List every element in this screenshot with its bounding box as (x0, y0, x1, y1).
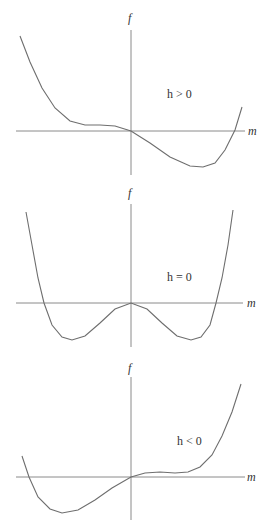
landau-free-energy-diagram: f m h > 0 f m h = 0 f m h < 0 (0, 0, 271, 532)
panel-h-negative: f m h < 0 (16, 361, 256, 520)
f-axis-label: f (128, 11, 133, 25)
panel-h-positive: f m h > 0 (16, 11, 257, 175)
m-axis-label: m (248, 124, 257, 138)
condition-label: h < 0 (177, 434, 202, 448)
f-axis-label: f (128, 361, 133, 375)
m-axis-label: m (247, 296, 256, 310)
panel-h-zero: f m h = 0 (16, 186, 256, 347)
condition-label: h > 0 (167, 87, 192, 101)
f-axis-label: f (128, 186, 133, 200)
condition-label: h = 0 (167, 270, 192, 284)
free-energy-curve (26, 210, 233, 340)
m-axis-label: m (247, 470, 256, 484)
